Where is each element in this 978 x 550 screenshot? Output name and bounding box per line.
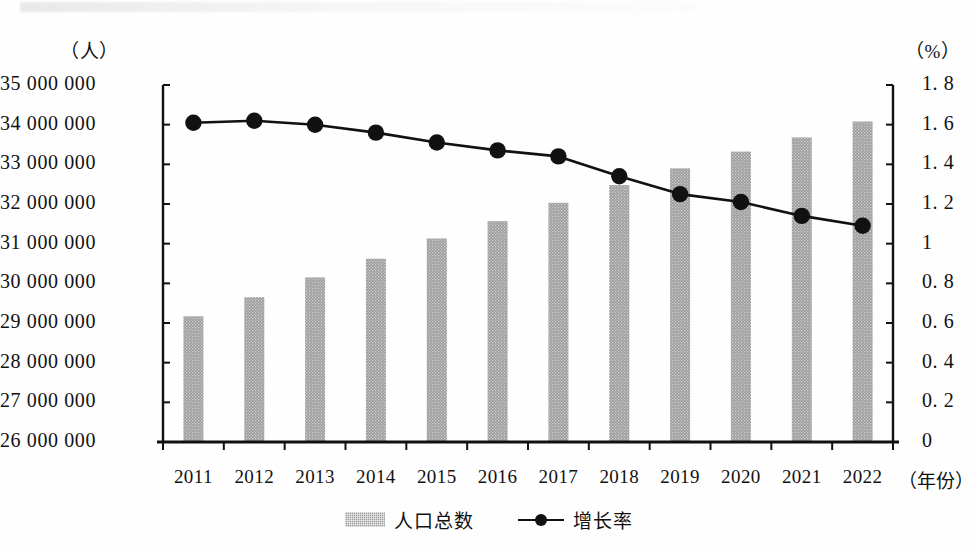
growth-rate-marker-2014 xyxy=(368,124,384,140)
population-growth-chart: （人） （%） 26 000 00027 000 00028 000 00029… xyxy=(0,0,978,550)
bar-swatch-icon xyxy=(345,512,385,527)
legend-label-population: 人口总数 xyxy=(394,506,474,533)
growth-rate-marker-2022 xyxy=(854,218,870,234)
chart-legend: 人口总数 增长率 xyxy=(0,506,978,533)
growth-rate-marker-2017 xyxy=(550,148,566,164)
bar-2019 xyxy=(670,168,690,442)
line-dot-swatch-icon xyxy=(518,513,564,527)
bar-2011 xyxy=(183,316,203,442)
growth-rate-marker-2015 xyxy=(429,134,445,150)
bar-2021 xyxy=(792,137,812,442)
bar-2012 xyxy=(244,297,264,442)
growth-rate-marker-2013 xyxy=(307,117,323,133)
growth-rate-marker-2012 xyxy=(246,113,262,129)
growth-rate-marker-2011 xyxy=(185,115,201,131)
bar-2015 xyxy=(427,239,447,443)
plot-area xyxy=(0,0,978,550)
growth-rate-marker-2020 xyxy=(733,194,749,210)
growth-rate-marker-2019 xyxy=(672,186,688,202)
bar-2018 xyxy=(609,185,629,442)
growth-rate-marker-2016 xyxy=(489,142,505,158)
bar-2017 xyxy=(548,203,568,442)
legend-label-growth-rate: 增长率 xyxy=(573,506,633,533)
legend-item-bars: 人口总数 xyxy=(345,506,474,533)
legend-item-line: 增长率 xyxy=(518,506,633,533)
bar-2013 xyxy=(305,277,325,442)
bar-2022 xyxy=(853,122,873,443)
bar-2014 xyxy=(366,259,386,442)
growth-rate-marker-2021 xyxy=(794,208,810,224)
growth-rate-line xyxy=(193,121,862,226)
growth-rate-marker-2018 xyxy=(611,168,627,184)
bar-2016 xyxy=(488,221,508,442)
